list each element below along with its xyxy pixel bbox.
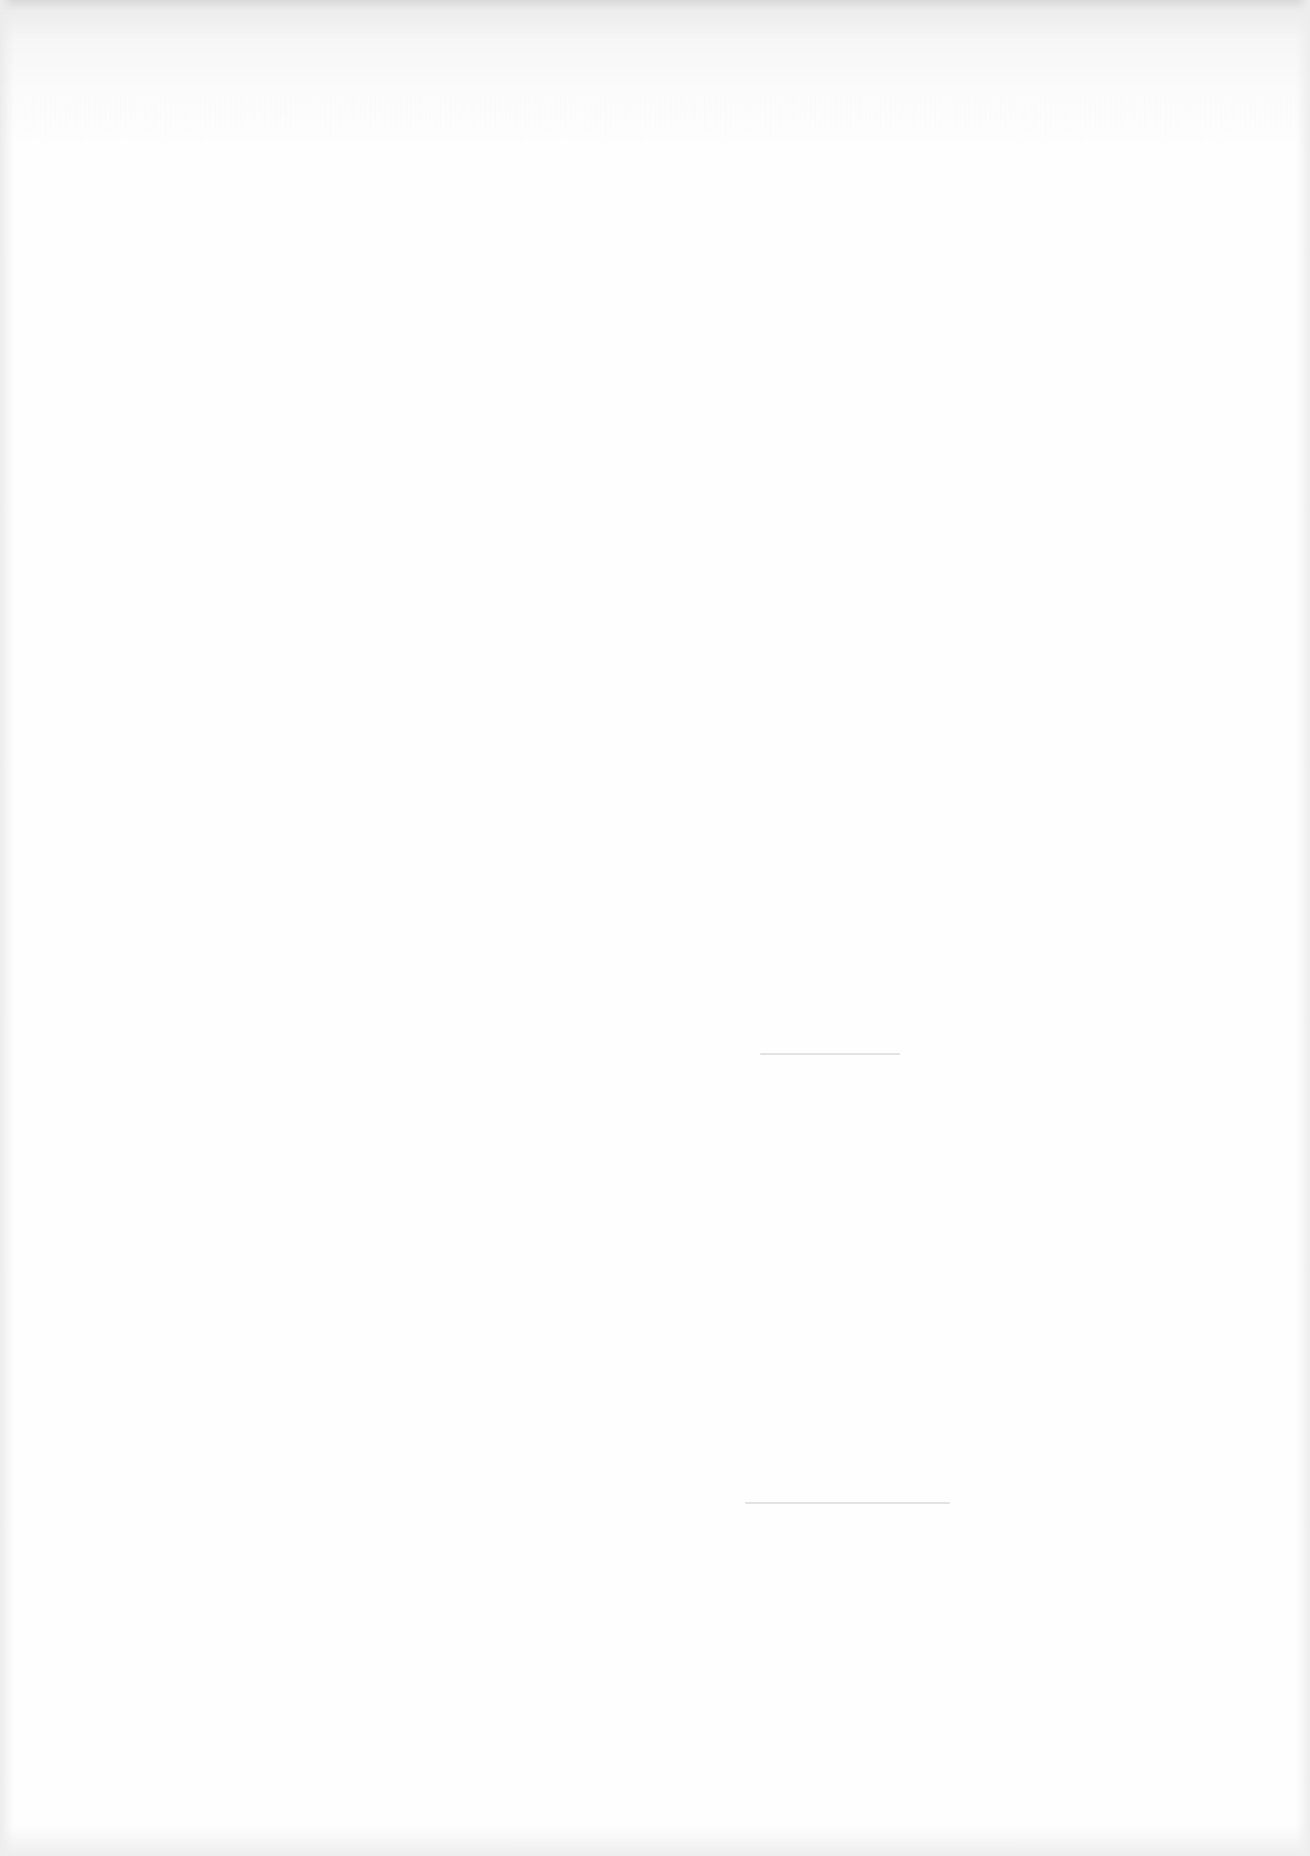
scan-shadow-bottom bbox=[0, 1826, 1310, 1856]
blank-scanned-page bbox=[0, 0, 1310, 1856]
faint-line-lower bbox=[745, 1502, 950, 1504]
faint-line-mid bbox=[760, 1053, 900, 1055]
scan-shadow-left bbox=[0, 0, 14, 1856]
scan-shadow-top bbox=[0, 0, 1310, 150]
scan-shadow-right bbox=[1296, 0, 1310, 1856]
